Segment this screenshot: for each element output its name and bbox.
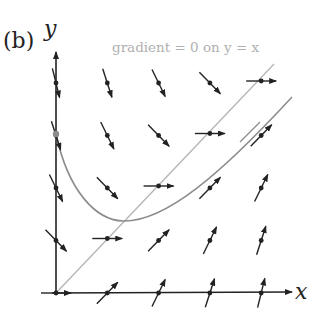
grid-point bbox=[259, 133, 264, 138]
grid-point bbox=[156, 238, 161, 243]
grid-point bbox=[105, 186, 110, 191]
grid-point bbox=[105, 133, 110, 138]
y-axis-label: y bbox=[43, 16, 57, 41]
direction-field-diagram: (b) y gradient = 0 on y = x x bbox=[0, 0, 314, 317]
grid-point bbox=[259, 79, 264, 84]
grid-point bbox=[156, 81, 161, 86]
grid-point bbox=[208, 131, 213, 136]
panel-label: (b) bbox=[3, 28, 34, 53]
grid-point bbox=[105, 291, 110, 296]
grid-point bbox=[259, 238, 264, 243]
grid-point bbox=[105, 81, 110, 86]
grid-point bbox=[208, 238, 213, 243]
grid-point bbox=[208, 291, 213, 296]
grid-point bbox=[259, 186, 264, 191]
grid-point bbox=[208, 186, 213, 191]
isocline-line bbox=[56, 64, 274, 293]
x-axis bbox=[52, 292, 292, 293]
grid-point bbox=[208, 81, 213, 86]
isocline-annotation: gradient = 0 on y = x bbox=[112, 39, 260, 55]
grid-point bbox=[156, 291, 161, 296]
grid-point bbox=[156, 184, 161, 189]
grid-point bbox=[54, 291, 59, 296]
grid-point bbox=[54, 81, 59, 86]
grid-point bbox=[259, 291, 264, 296]
grid-point bbox=[156, 133, 161, 138]
grid-point bbox=[54, 186, 59, 191]
initial-point bbox=[53, 131, 59, 137]
x-axis-label: x bbox=[295, 279, 308, 304]
grid-point bbox=[105, 236, 110, 241]
solution-curve bbox=[56, 97, 292, 221]
grid-point bbox=[54, 238, 59, 243]
